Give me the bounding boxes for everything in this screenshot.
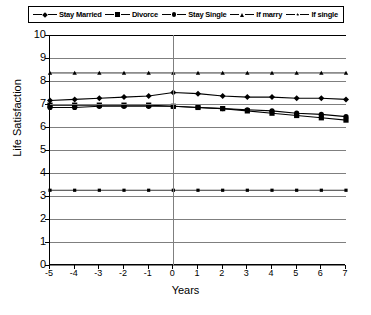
y-axis-tick xyxy=(45,150,50,151)
gridline xyxy=(50,219,346,220)
circle-marker-icon xyxy=(195,105,200,110)
legend-line-icon xyxy=(162,14,171,15)
gridline xyxy=(50,104,346,105)
y-axis-tick xyxy=(45,35,50,36)
star-marker-icon xyxy=(295,189,298,192)
star-marker-icon xyxy=(147,189,150,192)
star-marker-icon xyxy=(196,189,199,192)
y-axis-tick xyxy=(45,127,50,128)
y-axis-tick-label: 3 xyxy=(24,189,46,201)
circle-marker-icon xyxy=(245,107,250,112)
y-axis-tick-label: 2 xyxy=(24,212,46,224)
gridline xyxy=(50,242,346,243)
x-axis-labels: -5-4-3-2-101234567 xyxy=(49,268,345,282)
legend-item-if-marry: If marry xyxy=(230,10,283,19)
star-marker-icon xyxy=(344,189,347,192)
star-marker-icon xyxy=(98,189,101,192)
star-marker-icon xyxy=(320,189,323,192)
x-axis-tick-label: -1 xyxy=(138,268,158,278)
legend-label: If single xyxy=(310,10,339,19)
x-axis-tick-label: 0 xyxy=(162,268,182,278)
legend-line-icon xyxy=(230,14,239,15)
legend-line-icon xyxy=(33,14,42,15)
diamond-marker-icon xyxy=(294,95,300,101)
y-axis-tick-label: 5 xyxy=(24,143,46,155)
diamond-marker-icon xyxy=(220,93,226,99)
square-marker-icon xyxy=(115,12,120,17)
x-axis-tick-label: 7 xyxy=(335,268,355,278)
y-axis-tick-label: 8 xyxy=(24,74,46,86)
y-axis-tick xyxy=(45,196,50,197)
gridline xyxy=(50,196,346,197)
star-marker-icon xyxy=(48,189,51,192)
circle-marker-icon xyxy=(72,105,77,110)
legend-label: If marry xyxy=(255,10,283,19)
legend-label: Stay Married xyxy=(58,10,103,19)
circle-marker-icon xyxy=(294,111,299,116)
diamond-marker-icon xyxy=(269,94,275,100)
legend-label: Divorce xyxy=(131,10,159,19)
y-axis-tick-label: 7 xyxy=(24,97,46,109)
diamond-marker-icon xyxy=(96,95,102,101)
x-axis-tick-label: 3 xyxy=(236,268,256,278)
star-marker-icon xyxy=(296,13,299,16)
star-marker-icon xyxy=(122,189,125,192)
circle-marker-icon xyxy=(319,112,324,117)
legend-item-if-single: If single xyxy=(286,10,339,19)
legend-line-icon xyxy=(245,14,254,15)
star-marker-icon xyxy=(221,189,224,192)
circle-marker-icon xyxy=(343,114,348,119)
y-axis-tick xyxy=(45,58,50,59)
gridline xyxy=(50,150,346,151)
x-axis-tick-label: 2 xyxy=(212,268,232,278)
x-axis-title: Years xyxy=(0,284,371,296)
legend-line-icon xyxy=(48,14,57,15)
legend-line-icon xyxy=(121,14,130,15)
y-axis-tick-label: 4 xyxy=(24,166,46,178)
diamond-marker-icon xyxy=(42,12,48,18)
series-stay-married xyxy=(47,90,349,104)
legend-label: Stay Single xyxy=(187,10,227,19)
gridline xyxy=(50,127,346,128)
x-axis-tick-label: 6 xyxy=(310,268,330,278)
diamond-marker-icon xyxy=(244,94,250,100)
triangle-marker-icon xyxy=(240,13,244,17)
chart-figure: Stay Married Divorce Stay Single If marr… xyxy=(0,0,371,315)
star-marker-icon xyxy=(73,189,76,192)
legend-line-icon xyxy=(177,14,186,15)
diamond-marker-icon xyxy=(72,96,78,102)
plot-area xyxy=(49,35,345,265)
diamond-marker-icon xyxy=(121,94,127,100)
series-if-single xyxy=(48,189,347,192)
diamond-marker-icon xyxy=(146,93,152,99)
diamond-marker-icon xyxy=(195,91,201,97)
y-axis-tick xyxy=(45,81,50,82)
gridline xyxy=(50,58,346,59)
chart-legend: Stay Married Divorce Stay Single If marr… xyxy=(28,6,344,23)
diamond-marker-icon xyxy=(343,96,349,102)
series-stay-single xyxy=(47,104,348,120)
x-axis-tick-label: 4 xyxy=(261,268,281,278)
circle-marker-icon xyxy=(47,105,52,110)
gridline xyxy=(50,81,346,82)
y-axis-tick xyxy=(45,219,50,220)
legend-line-icon xyxy=(286,14,295,15)
star-marker-icon xyxy=(270,189,273,192)
x-axis-tick-label: -3 xyxy=(88,268,108,278)
y-axis-tick xyxy=(45,173,50,174)
y-axis-tick xyxy=(45,104,50,105)
y-axis-tick-label: 6 xyxy=(24,120,46,132)
legend-item-divorce: Divorce xyxy=(105,10,159,19)
x-axis-tick-label: -2 xyxy=(113,268,133,278)
circle-marker-icon xyxy=(220,106,225,111)
legend-item-stay-married: Stay Married xyxy=(33,10,103,19)
x-axis-tick-label: 1 xyxy=(187,268,207,278)
y-axis-tick-label: 9 xyxy=(24,51,46,63)
x-axis-tick-label: -4 xyxy=(64,268,84,278)
star-marker-icon xyxy=(246,189,249,192)
y-axis-tick-label: 10 xyxy=(24,28,46,40)
gridline xyxy=(50,173,346,174)
y-axis-tick xyxy=(45,242,50,243)
diamond-marker-icon xyxy=(318,95,324,101)
legend-line-icon xyxy=(300,14,309,15)
